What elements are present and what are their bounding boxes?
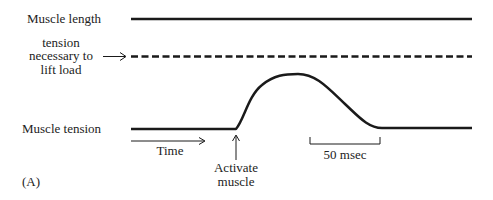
scale-bar	[310, 137, 380, 144]
muscle-tension-curve	[131, 74, 472, 129]
arrow-right-icon	[103, 53, 126, 61]
tension-label-line3: lift load	[41, 62, 82, 77]
activate-arrow-icon	[233, 135, 240, 160]
muscle-length-label: Muscle length	[27, 11, 102, 26]
tension-label-line2: necessary to	[29, 48, 93, 63]
scale-bar-label: 50 msec	[324, 147, 367, 162]
muscle-contraction-diagram: Muscle length tension necessary to lift …	[0, 0, 493, 200]
muscle-tension-label: Muscle tension	[22, 121, 102, 136]
time-label: Time	[157, 143, 184, 158]
activate-label-line1: Activate	[214, 160, 258, 175]
activate-label-line2: muscle	[218, 174, 255, 189]
panel-label: (A)	[22, 174, 40, 189]
